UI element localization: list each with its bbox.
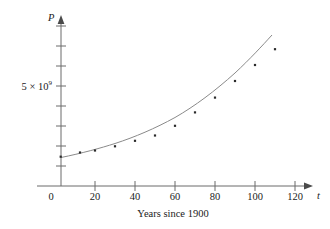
data-point-t110 [274, 48, 276, 50]
data-point-t0 [60, 156, 62, 158]
exponential-fit-curve [61, 35, 272, 158]
y-tick-label-mantissa: 5 × 10 [22, 81, 49, 92]
data-point-t10 [79, 151, 81, 153]
x-tick-label-80: 80 [210, 192, 221, 203]
data-point-t80 [214, 97, 216, 99]
data-point-t90 [234, 80, 236, 82]
y-tick-label-5e9: 5 × 109 [4, 80, 52, 92]
y-axis-label: P [48, 13, 54, 24]
x-tick-label-60: 60 [170, 192, 181, 203]
figure-caption: Years since 1900 [137, 209, 208, 220]
y-axis-arrow-icon [58, 15, 65, 24]
data-point-t60 [174, 125, 176, 127]
data-point-t50 [154, 134, 156, 136]
data-point-t100 [254, 64, 256, 66]
x-tick-label-40: 40 [130, 192, 141, 203]
population-scatter-figure: P 5 × 109 0 20 40 60 80 100 120 t Years … [0, 0, 330, 229]
data-point-t20 [94, 149, 96, 151]
y-tick-label-exponent: 9 [49, 79, 53, 87]
x-tick-label-0: 0 [48, 192, 53, 203]
data-point-t30 [114, 145, 116, 147]
x-tick-label-20: 20 [90, 192, 101, 203]
x-axis-arrow-icon [304, 183, 313, 190]
data-point-t40 [134, 140, 136, 142]
x-tick-label-120: 120 [287, 192, 303, 203]
x-tick-label-100: 100 [247, 192, 263, 203]
data-point-t70 [194, 111, 196, 113]
x-axis-label: t [317, 191, 320, 202]
